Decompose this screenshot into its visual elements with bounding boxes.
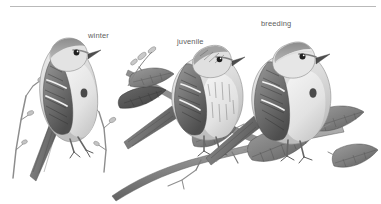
bill bbox=[316, 54, 330, 64]
eye bbox=[217, 57, 223, 63]
label-winter: winter bbox=[88, 31, 109, 40]
bill bbox=[88, 50, 101, 59]
eye bbox=[74, 50, 80, 56]
breast-spot bbox=[309, 88, 316, 98]
leaf-cluster-left bbox=[118, 46, 174, 109]
label-juvenile: juvenile bbox=[177, 37, 204, 46]
eye bbox=[300, 54, 306, 60]
winter-bird-figure bbox=[13, 38, 117, 181]
bill bbox=[232, 57, 245, 66]
breast-spot bbox=[81, 88, 88, 97]
bird-illustration bbox=[0, 0, 381, 204]
field-guide-plate: winter juvenile breeding bbox=[0, 0, 381, 204]
label-breeding: breeding bbox=[261, 19, 291, 28]
